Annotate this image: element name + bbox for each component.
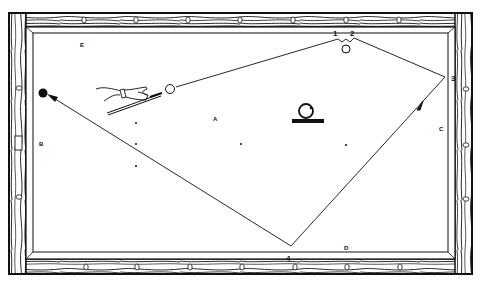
zone-label-e: E <box>80 42 84 48</box>
zone-label-c: C <box>439 126 444 132</box>
rail-number-2: 2 <box>350 29 355 38</box>
zone-label-b: B <box>39 141 44 147</box>
left-rail-marker <box>15 136 22 150</box>
rail-number-1: 1 <box>333 29 338 38</box>
zone-label-a: A <box>213 116 218 122</box>
billiard-table-diagram: 1 2 3 4 A B C D E <box>0 0 484 287</box>
rail-number-4: 4 <box>286 254 291 263</box>
cue-ball <box>166 85 175 94</box>
ball-near-rail <box>342 45 350 53</box>
cushion <box>26 27 455 259</box>
rail-number-3: 3 <box>451 74 456 83</box>
zone-label-d: D <box>344 245 349 251</box>
object-ball-black <box>39 89 48 98</box>
